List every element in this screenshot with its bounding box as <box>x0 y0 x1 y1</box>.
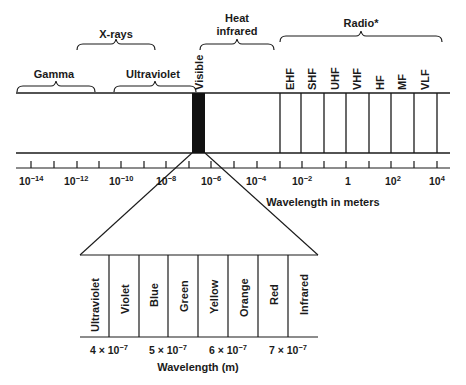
visible-detail-labels: Ultraviolet Violet Blue Green Yellow Ora… <box>89 274 310 332</box>
detail-tick-label: 5 × 10−7 <box>149 343 187 356</box>
radio-band-shf: SHF <box>306 68 318 90</box>
radio-brace <box>280 31 442 42</box>
detail-band-violet: Violet <box>119 284 131 314</box>
detail-band-yellow: Yellow <box>208 279 220 314</box>
label-ultraviolet: Ultraviolet <box>126 68 180 80</box>
detail-band-ultraviolet: Ultraviolet <box>89 278 101 332</box>
xrays-brace <box>77 39 155 50</box>
tick-label: 1 <box>345 175 351 187</box>
label-infrared: infrared <box>217 25 258 37</box>
detail-band-blue: Blue <box>148 283 160 307</box>
tick-label: 104 <box>429 174 446 187</box>
label-xrays: X-rays <box>99 28 133 40</box>
radio-band-uhf: UHF <box>329 67 341 90</box>
tick-label: 10−4 <box>246 174 267 187</box>
tick-label: 10−10 <box>109 174 133 187</box>
spectrum-diagram: Gamma X-rays Ultraviolet Heat infrared R… <box>0 0 466 385</box>
ultraviolet-brace <box>114 81 196 92</box>
label-visible: Visible <box>193 55 205 90</box>
gamma-brace <box>17 81 95 92</box>
tick-label: 10−2 <box>292 174 312 187</box>
heat-infrared-brace <box>200 39 274 50</box>
radio-band-vhf: VHF <box>351 68 363 90</box>
detail-band-green: Green <box>178 280 190 312</box>
radio-band-labels: EHF SHF UHF VHF HF MF VLF <box>284 67 431 90</box>
radio-band-ehf: EHF <box>284 68 296 90</box>
label-gamma: Gamma <box>34 68 75 80</box>
detail-band-orange: Orange <box>238 278 250 317</box>
label-heat: Heat <box>225 12 249 24</box>
detail-band-red: Red <box>268 284 280 305</box>
radio-band-hf: HF <box>374 75 386 90</box>
visible-detail-ticks: 4 × 10−7 5 × 10−7 6 × 10−7 7 × 10−7 <box>90 343 307 356</box>
radio-band-vlf: VLF <box>419 69 431 90</box>
tick-label: 10−14 <box>19 174 44 187</box>
spectrum-band <box>16 93 450 153</box>
visible-band <box>192 93 205 153</box>
detail-tick-label: 7 × 10−7 <box>269 343 307 356</box>
tick-label: 10−12 <box>64 174 88 187</box>
axis-label: Wavelength in meters <box>266 196 379 208</box>
tick-label: 102 <box>385 174 401 187</box>
radio-band-mf: MF <box>396 74 408 90</box>
detail-axis-label: Wavelength (m) <box>157 361 239 373</box>
detail-tick-label: 6 × 10−7 <box>209 343 247 356</box>
tick-label: 10−6 <box>201 174 221 187</box>
axis-tick-labels: 10−14 10−12 10−10 10−8 10−6 10−4 10−2 1 … <box>19 174 446 187</box>
visible-detail-box <box>80 255 318 337</box>
detail-band-infrared: Infrared <box>298 274 310 315</box>
wavelength-axis <box>16 161 450 168</box>
detail-tick-label: 4 × 10−7 <box>90 343 128 356</box>
label-radio: Radio* <box>344 17 380 29</box>
